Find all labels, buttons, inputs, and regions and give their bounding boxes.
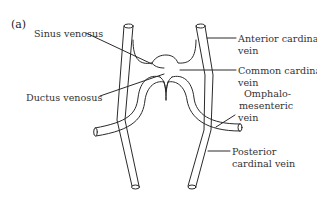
label-posterior-cardinal-vein-line1: Posterior [232, 146, 276, 157]
label-omphalomesenteric-vein-line1: Omphalo- [244, 88, 291, 99]
label-common-cardinal-vein-line2: vein [238, 77, 258, 88]
label-sinus-venosus: Sinus venosus [34, 28, 103, 39]
label-omphalomesenteric-vein-line2: mesenteric [239, 100, 293, 111]
label-omphalomesenteric-vein-line3: vein [238, 112, 258, 123]
label-posterior-cardinal-vein-line2: cardinal vein [232, 158, 295, 169]
panel-label: (a) [11, 18, 26, 31]
label-common-cardinal-vein-line1: Common cardinal [238, 65, 317, 76]
label-ductus-venosus: Ductus venosus [26, 92, 102, 103]
label-anterior-cardinal-vein-line2: vein [238, 45, 258, 56]
embryonic-veins-diagram: (a) Sinus venosus Ductus venosus Anterio… [0, 0, 317, 198]
label-anterior-cardinal-vein-line1: Anterior cardinal [238, 33, 317, 44]
